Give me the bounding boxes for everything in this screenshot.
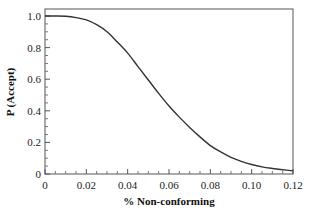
oc-curve-chart: 00.20.40.60.81.0 00.020.040.060.080.100.…	[0, 0, 316, 213]
x-tick-label: 0.10	[242, 179, 262, 191]
x-tick-label: 0.02	[77, 179, 96, 191]
y-tick-label: 1.0	[27, 10, 41, 22]
x-tick-label: 0.12	[283, 179, 302, 191]
y-tick-label: 0.8	[27, 42, 41, 54]
y-axis: 00.20.40.60.81.0	[27, 10, 50, 180]
y-tick-label: 0.6	[27, 73, 41, 85]
x-tick-label: 0.08	[201, 179, 221, 191]
x-tick-label: 0	[42, 179, 48, 191]
x-axis-title: % Non-conforming	[123, 195, 215, 207]
y-axis-title: P (Accept)	[4, 67, 17, 116]
oc-curve-line	[45, 16, 293, 171]
x-axis: 00.020.040.060.080.100.12	[42, 169, 302, 191]
y-tick-label: 0.4	[27, 105, 41, 117]
plot-frame	[45, 9, 293, 174]
y-tick-label: 0.2	[27, 136, 41, 148]
x-tick-label: 0.04	[118, 179, 138, 191]
x-tick-label: 0.06	[159, 179, 179, 191]
y-tick-label: 0	[36, 168, 42, 180]
